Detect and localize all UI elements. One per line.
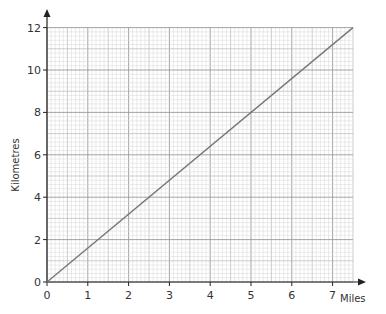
x-tick-label: 7 [329,289,336,302]
y-tick-label: 8 [34,106,41,119]
x-tick-label: 5 [248,289,255,302]
x-tick-label: 4 [207,289,214,302]
x-tick-label: 3 [166,289,173,302]
x-tick-label: 1 [84,289,91,302]
conversion-chart: 01234567024681012 Miles Kilometres [0,0,386,314]
x-tick-label: 6 [288,289,295,302]
x-tick-label: 0 [44,289,51,302]
y-tick-label: 2 [34,234,41,247]
y-tick-label: 0 [34,276,41,289]
y-tick-label: 12 [27,22,41,35]
y-tick-label: 4 [34,191,41,204]
y-tick-label: 10 [27,64,41,77]
x-tick-label: 2 [125,289,132,302]
y-axis-label: Kilometres [10,138,21,191]
y-tick-label: 6 [34,149,41,162]
x-axis-label: Miles [340,293,366,304]
